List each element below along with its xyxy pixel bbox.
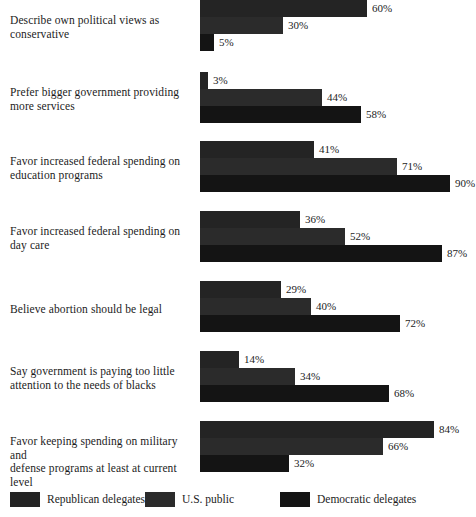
legend-swatch (145, 492, 175, 507)
category-label: Favor increased federal spending oneduca… (10, 155, 195, 182)
legend-item[interactable]: Democratic delegates (280, 489, 416, 509)
category-label-line: attention to the needs of blacks (10, 379, 195, 393)
bar (200, 175, 450, 192)
legend-item[interactable]: Republican delegates (10, 489, 145, 509)
bar-value-label: 32% (294, 456, 314, 471)
bar (200, 228, 345, 245)
bar-value-label: 34% (300, 369, 320, 384)
bar (200, 368, 295, 385)
bar-value-label: 71% (402, 159, 422, 174)
category-label-line: day care (10, 239, 195, 253)
bar (200, 438, 383, 455)
bar (200, 106, 361, 123)
category-label: Favor increased federal spending onday c… (10, 225, 195, 252)
bar (200, 89, 322, 106)
bar (200, 315, 400, 332)
category-label-line: conservative (10, 28, 195, 42)
category-label: Say government is paying too littleatten… (10, 365, 195, 392)
category-label-line: Favor keeping spending on military and (10, 435, 195, 462)
bar-value-label: 90% (455, 176, 475, 191)
category-label-line: defense programs at least at current lev… (10, 462, 195, 489)
bar (200, 211, 300, 228)
legend-label: Democratic delegates (317, 493, 416, 505)
bar-value-label: 52% (350, 229, 370, 244)
bar-value-label: 72% (405, 316, 425, 331)
category-label: Describe own political views asconservat… (10, 14, 195, 41)
bar (200, 245, 442, 262)
category-label: Believe abortion should be legal (10, 303, 195, 317)
bar (200, 298, 311, 315)
bar-value-label: 36% (305, 212, 325, 227)
bar-value-label: 66% (388, 439, 408, 454)
category-label-line: Prefer bigger government providing (10, 86, 195, 100)
bar-value-label: 3% (213, 73, 228, 88)
legend-label: U.S. public (182, 493, 234, 505)
bar (200, 158, 397, 175)
legend-label: Republican delegates (47, 493, 145, 505)
bar-value-label: 87% (447, 246, 467, 261)
bar (200, 455, 289, 472)
bar (200, 0, 367, 17)
bar (200, 17, 283, 34)
bar-value-label: 14% (244, 352, 264, 367)
bar-value-label: 41% (319, 142, 339, 157)
chart-legend: Republican delegatesU.S. publicDemocrati… (0, 489, 476, 511)
grouped-bar-chart: Describe own political views asconservat… (0, 0, 476, 517)
legend-swatch (10, 492, 40, 507)
bar (200, 385, 389, 402)
category-label-line: education programs (10, 169, 195, 183)
category-label-line: more services (10, 100, 195, 114)
bar-value-label: 58% (366, 107, 386, 122)
bar-value-label: 29% (286, 282, 306, 297)
bar-value-label: 84% (439, 422, 459, 437)
bar-value-label: 5% (219, 35, 234, 50)
bar-value-label: 40% (316, 299, 336, 314)
legend-item[interactable]: U.S. public (145, 489, 234, 509)
bar (200, 351, 239, 368)
bar-value-label: 60% (372, 1, 392, 16)
bar-value-label: 44% (327, 90, 347, 105)
legend-swatch (280, 492, 310, 507)
bar (200, 34, 214, 51)
category-label-line: Say government is paying too little (10, 365, 195, 379)
category-label-line: Believe abortion should be legal (10, 303, 195, 317)
bar-value-label: 68% (394, 386, 414, 401)
category-label-line: Favor increased federal spending on (10, 225, 195, 239)
bar (200, 72, 208, 89)
category-label: Favor keeping spending on military andde… (10, 435, 195, 489)
bar-value-label: 30% (288, 18, 308, 33)
bar (200, 141, 314, 158)
category-label-line: Describe own political views as (10, 14, 195, 28)
bar (200, 421, 434, 438)
category-label-line: Favor increased federal spending on (10, 155, 195, 169)
category-label: Prefer bigger government providingmore s… (10, 86, 195, 113)
bar (200, 281, 281, 298)
